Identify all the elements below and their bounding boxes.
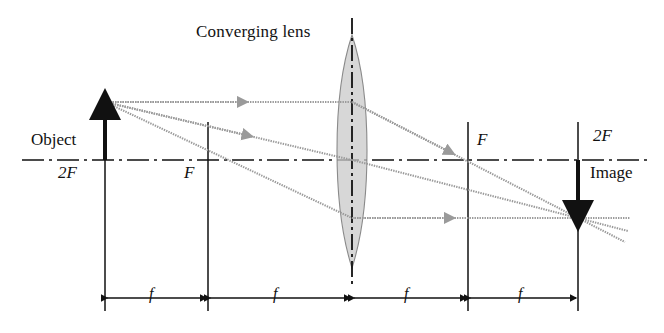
segment-3-label: f [404,285,408,303]
object-position-label: 2F [58,163,77,183]
figure-canvas: Converging lens Object 2F F F 2F Image f… [0,0,664,333]
focal-left-label: F [184,163,194,183]
segment-2-label: f [273,285,277,303]
image-label: Image [590,163,632,183]
image-position-label: 2F [593,126,612,146]
focal-right-label: F [477,130,487,150]
converging-lens [337,18,367,288]
segment-4-label: f [518,285,522,303]
lens-title-label: Converging lens [196,22,311,42]
ray-diagram-svg [0,0,664,333]
segment-1-label: f [149,285,153,303]
object-label: Object [31,130,76,150]
